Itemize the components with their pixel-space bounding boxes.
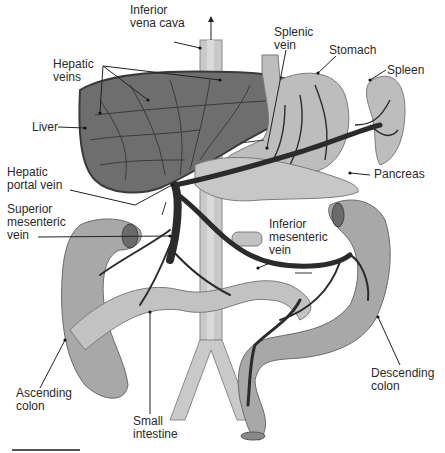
label-hepatic-portal-vein: Hepatic portal vein	[7, 166, 62, 192]
label-stomach: Stomach	[329, 44, 376, 57]
label-descending-colon: Descending colon	[371, 367, 434, 393]
label-ascending-colon: Ascending colon	[16, 387, 72, 413]
label-liver: Liver	[32, 121, 58, 134]
label-small-intestine: Small intestine	[133, 415, 178, 441]
label-splenic-vein: Splenic vein	[274, 26, 313, 52]
label-inferior-vena-cava: Inferior vena cava	[130, 4, 185, 30]
label-inferior-mesenteric-vein: Inferior mesenteric vein	[269, 218, 328, 257]
label-pancreas: Pancreas	[374, 168, 425, 181]
label-spleen: Spleen	[387, 64, 424, 77]
label-superior-mesenteric-vein: Superior mesenteric vein	[7, 203, 66, 242]
label-hepatic-veins: Hepatic veins	[53, 58, 94, 84]
spleen	[355, 76, 405, 165]
pancreas	[195, 157, 358, 200]
